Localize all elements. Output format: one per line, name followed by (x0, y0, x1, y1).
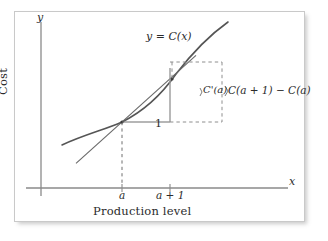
run-length-label: 1 (155, 118, 162, 129)
cost-difference-label: C(a + 1) − C(a) (228, 85, 311, 96)
y-axis-variable-label: y (37, 12, 43, 23)
x-axis-title: Production level (93, 206, 191, 218)
x-tick-label-a: a (119, 190, 125, 201)
y-axis-title: Cost (0, 68, 10, 95)
x-axis-variable-label: x (289, 176, 295, 187)
derivative-label: C'(a) (203, 85, 227, 95)
tangent-line (76, 55, 196, 163)
x-tick-label-a-plus-1: a + 1 (156, 190, 184, 201)
figure-root: y = C(x) C'(a) C(a + 1) − C(a) 1 y x a a… (0, 0, 328, 241)
brace-derivative-icon (200, 88, 202, 96)
curve-equation-label: y = C(x) (146, 31, 192, 42)
